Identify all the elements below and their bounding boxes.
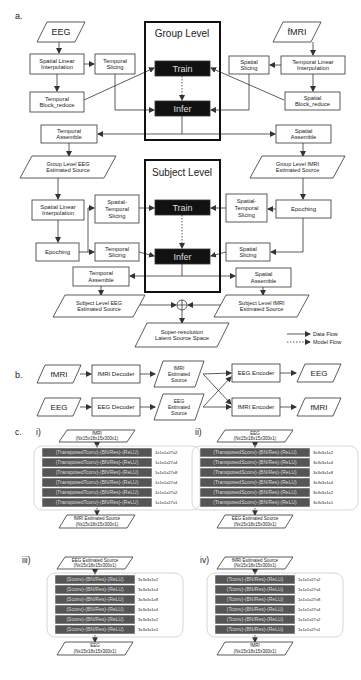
net-2-layer-2: (TransposedSconv)-(BN/Res)-(ReLU)	[200, 458, 310, 467]
svg-text:3x3x3x1x1: 3x3x3x1x1	[138, 627, 159, 632]
b-eeg-estimated-source: EEGEstimatedSource	[154, 394, 204, 420]
svg-text:(Nx15x18x15x300x1): (Nx15x18x15x300x1)	[234, 649, 277, 654]
subject-spatial-slicing-right-label: SpatialSlicing	[239, 246, 257, 259]
svg-text:(TransposedSconv)-(BN/Res)-(Re: (TransposedSconv)-(BN/Res)-(ReLU)	[213, 499, 297, 505]
net-4-layer-1: (Tconv)-(BN/Res)-(ReLU)	[215, 575, 295, 584]
net-2-kernel-4: 3x3x3x1x4	[313, 480, 334, 485]
svg-text:b.: b.	[15, 370, 23, 380]
net-1-layer-3: (TransposedTconv)-(BN/Res)-(ReLU)	[42, 468, 152, 477]
group-level-title: Group Level	[155, 28, 209, 39]
net-3-layer-2-label: (Sconv)-(BN/Res)-(ReLU)	[66, 586, 124, 592]
svg-text:1x1x1x27x8: 1x1x1x27x8	[298, 597, 321, 602]
svg-text:(Sconv)-(BN/Res)-(ReLU): (Sconv)-(BN/Res)-(ReLU)	[66, 576, 124, 582]
subject-spatial-linear-interp-left-label: Spatial LinearInterpolation	[40, 204, 76, 217]
svg-text:iv): iv)	[200, 555, 209, 565]
subject-spatial-temporal-slicing-left-label: Spatial-TemporalSlicing	[105, 199, 129, 218]
net-4-layer-5-label: (Tconv)-(BN/Res)-(ReLU)	[227, 616, 284, 622]
svg-text:Spatial Linear: Spatial Linear	[39, 58, 75, 64]
group-spatial-assemble: SpatialAssemble	[276, 125, 331, 143]
subject-eeg-estimated-source-label: Subject Level EEGEstimated Source	[76, 300, 122, 312]
svg-text:(TransposedTconv)-(BN/Res)-(Re: (TransposedTconv)-(BN/Res)-(ReLU)	[56, 459, 139, 465]
svg-text:fMRI: fMRI	[311, 403, 328, 412]
svg-text:Data Flow: Data Flow	[313, 331, 338, 337]
legend-data-flow: Data Flow	[313, 331, 338, 337]
net-3-layer-4-label: (Sconv)-(BN/Res)-(ReLU)	[66, 606, 124, 612]
svg-text:(Nx15x18x15x300x1): (Nx15x18x15x300x1)	[76, 522, 119, 527]
subject-epoching-right-label: Epoching	[291, 206, 316, 212]
svg-text:Spatial-: Spatial-	[237, 198, 257, 204]
net-1-kernel-2: 1x1x1x27x4	[155, 460, 178, 465]
net-4-layer-2-label: (Tconv)-(BN/Res)-(ReLU)	[227, 586, 284, 592]
net-iii-label: iii)	[22, 555, 31, 565]
svg-text:3x3x3x1x2: 3x3x3x1x2	[138, 617, 159, 622]
net-4-kernel-1: 1x1x1x27x2	[298, 577, 321, 582]
net-4-kernel-3: 1x1x1x27x8	[298, 597, 321, 602]
svg-text:3x3x3x1x4: 3x3x3x1x4	[313, 460, 334, 465]
svg-text:Super-resolution: Super-resolution	[161, 329, 204, 335]
net-1-output-label: fMRI Estimated Source(Nx15x18x15x300x1)	[74, 516, 121, 526]
net-2-layer-5: (TransposedSconv)-(BN/Res)-(ReLU)	[200, 488, 310, 497]
net-1-layer-1-label: (TransposedTconv)-(BN/Res)-(ReLU)	[56, 449, 139, 455]
group-train-block: Train	[155, 61, 210, 76]
net-4-layer-6: (Tconv)-(BN/Res)-(ReLU)	[215, 625, 295, 634]
net-4-kernel-5: 1x1x1x27x2	[298, 617, 321, 622]
svg-text:Subject Level: Subject Level	[152, 167, 212, 178]
net-2-output-label: EEG Estimated Source(Nx15x18x15x300x1)	[232, 516, 279, 526]
svg-text:Subject Level fMRI: Subject Level fMRI	[238, 300, 285, 306]
svg-text:Temporal: Temporal	[105, 246, 129, 252]
svg-text:Interpolation: Interpolation	[41, 64, 73, 70]
svg-text:Slicing: Slicing	[108, 213, 125, 219]
svg-text:(Tconv)-(BN/Res)-(ReLU): (Tconv)-(BN/Res)-(ReLU)	[227, 626, 284, 632]
net-1-layer-1: (TransposedTconv)-(BN/Res)-(ReLU)	[42, 448, 152, 457]
net-ii-label: ii)	[195, 427, 202, 437]
net-3-layer-3-label: (Sconv)-(BN/Res)-(ReLU)	[66, 596, 124, 602]
group-temporal-slicing-left: TemporalSlicing	[95, 54, 135, 74]
svg-text:Group Level EEG: Group Level EEG	[46, 161, 89, 167]
subject-spatial-temporal-slicing-right-label: Spatial-TemporalSlicing	[235, 198, 259, 217]
net-1-layer-6: (TransposedTconv)-(BN/Res)-(ReLU)	[42, 498, 152, 507]
svg-text:c.: c.	[15, 427, 22, 437]
svg-text:Estimated Source: Estimated Source	[77, 306, 120, 312]
svg-text:Assemble: Assemble	[251, 278, 276, 284]
subject-train-block: Train	[155, 200, 210, 215]
svg-text:Temporal: Temporal	[45, 96, 69, 102]
svg-text:Temporal: Temporal	[89, 270, 113, 276]
subject-temporal-assemble-label: TemporalAssemble	[88, 270, 113, 283]
svg-text:(TransposedTconv)-(BN/Res)-(Re: (TransposedTconv)-(BN/Res)-(ReLU)	[56, 489, 139, 495]
svg-text:3x3x3x1x8: 3x3x3x1x8	[313, 470, 334, 475]
net-4-layer-3-label: (Tconv)-(BN/Res)-(ReLU)	[227, 596, 284, 602]
net-2-kernel-2: 3x3x3x1x4	[313, 460, 334, 465]
b-eeg-decoder-label: EEG Decoder	[97, 404, 134, 410]
subject-epoching-left-label: Epoching	[45, 249, 70, 255]
svg-text:(Sconv)-(BN/Res)-(ReLU): (Sconv)-(BN/Res)-(ReLU)	[66, 586, 124, 592]
svg-text:3x3x3x1x4: 3x3x3x1x4	[313, 480, 334, 485]
svg-text:Assemble: Assemble	[56, 134, 81, 140]
net-4-layer-3: (Tconv)-(BN/Res)-(ReLU)	[215, 595, 295, 604]
diagram-canvas: a.Group LevelTrainInferEEGSpatial Linear…	[0, 0, 361, 680]
svg-text:Epoching: Epoching	[45, 249, 70, 255]
svg-text:1x1x1x27x2: 1x1x1x27x2	[298, 577, 321, 582]
subject-fmri-estimated-source: Subject Level fMRIEstimated Source	[214, 295, 309, 317]
group-spatial-slicing-right: SpatialSlicing	[229, 56, 269, 74]
subject-infer-block-label: Infer	[173, 252, 191, 262]
fusion-sum-node	[177, 300, 187, 310]
group-temporal-slicing-left-label: TemporalSlicing	[103, 58, 127, 71]
b-eeg-encoder: EEG Encoder	[232, 364, 280, 382]
svg-text:3x3x3x1x8: 3x3x3x1x8	[138, 597, 159, 602]
subject-spatial-slicing-right: SpatialSlicing	[226, 243, 270, 261]
svg-text:Block_reduce: Block_reduce	[295, 101, 330, 107]
net-2-layer-6-label: (TransposedSconv)-(BN/Res)-(ReLU)	[213, 499, 297, 505]
net-1-kernel-5: 1x1x1x27x2	[155, 490, 178, 495]
net-4-kernel-4: 1x1x1x27x4	[298, 607, 321, 612]
group-infer-block-label: Infer	[173, 104, 191, 114]
svg-text:(TransposedSconv)-(BN/Res)-(Re: (TransposedSconv)-(BN/Res)-(ReLU)	[213, 449, 297, 455]
net-iv-label: iv)	[200, 555, 209, 565]
net-1-output: fMRI Estimated Source(Nx15x18x15x300x1)	[59, 515, 135, 528]
net-1-input: fMRI(Nx15x18x15x300x1)	[59, 430, 135, 442]
net-3-layer-4: (Sconv)-(BN/Res)-(ReLU)	[55, 605, 135, 614]
group-temporal-block-reduce: TemporalBlock_reduce	[30, 92, 84, 112]
net-2-kernel-1: 3x3x3x1x2	[313, 450, 334, 455]
svg-text:3x3x3x1x2: 3x3x3x1x2	[138, 577, 159, 582]
svg-text:3x3x3x1x4: 3x3x3x1x4	[138, 587, 159, 592]
net-2-layer-4: (TransposedSconv)-(BN/Res)-(ReLU)	[200, 478, 310, 487]
